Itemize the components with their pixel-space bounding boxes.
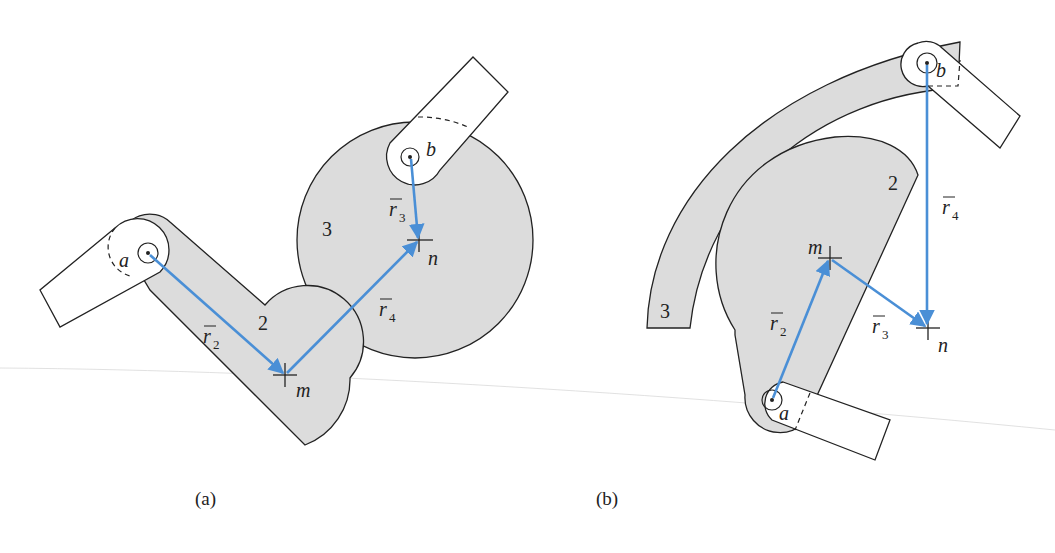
panel-b-caption: (b) bbox=[596, 488, 618, 510]
panel-b: 2 3 a b m n r 2 r 3 r 4 (b) bbox=[596, 41, 1020, 510]
panel-a-caption: (a) bbox=[195, 488, 216, 510]
panel-a-link-2-label: 2 bbox=[258, 312, 268, 334]
svg-text:r: r bbox=[770, 312, 778, 334]
panel-a-slider-a bbox=[40, 219, 169, 327]
svg-text:3: 3 bbox=[882, 327, 889, 342]
panel-a-point-n-label: n bbox=[428, 247, 438, 269]
svg-text:4: 4 bbox=[952, 208, 959, 223]
svg-text:r: r bbox=[942, 196, 950, 218]
svg-text:3: 3 bbox=[399, 210, 406, 225]
panel-b-link-3-label: 3 bbox=[660, 300, 670, 322]
mechanism-figure: 2 3 a b m n r 2 r 3 r 4 (a) bbox=[0, 0, 1055, 553]
panel-b-vector-r3-label: r 3 bbox=[872, 315, 889, 342]
svg-text:4: 4 bbox=[389, 310, 396, 325]
panel-b-point-a-label: a bbox=[779, 402, 789, 424]
panel-b-vector-r4-label: r 4 bbox=[942, 196, 959, 223]
panel-a-point-m-label: m bbox=[296, 379, 310, 401]
svg-text:r: r bbox=[389, 198, 397, 220]
panel-b-link-2-label: 2 bbox=[888, 172, 898, 194]
panel-a-point-a-label: a bbox=[119, 249, 129, 271]
svg-text:2: 2 bbox=[213, 337, 220, 352]
svg-text:2: 2 bbox=[780, 324, 787, 339]
panel-a-link-3-label: 3 bbox=[322, 218, 332, 240]
panel-a-point-b-label: b bbox=[426, 138, 436, 160]
panel-b-point-n-label: n bbox=[938, 334, 948, 356]
scan-artifact-line bbox=[0, 368, 1055, 430]
svg-text:r: r bbox=[872, 315, 880, 337]
svg-text:r: r bbox=[379, 298, 387, 320]
panel-b-point-b-label: b bbox=[936, 59, 946, 81]
panel-b-point-m-label: m bbox=[808, 236, 822, 258]
svg-text:r: r bbox=[203, 325, 211, 347]
panel-a: 2 3 a b m n r 2 r 3 r 4 (a) bbox=[40, 57, 533, 510]
